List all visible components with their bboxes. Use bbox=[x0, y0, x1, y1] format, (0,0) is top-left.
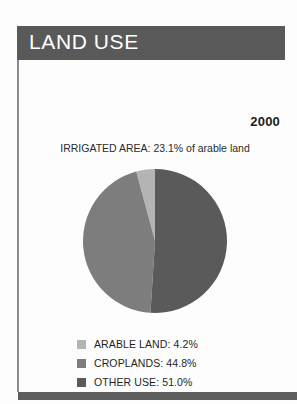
list-item: OTHER USE: 51.0% bbox=[77, 376, 198, 388]
panel-header: LAND USE bbox=[17, 26, 285, 60]
legend-label-croplands: CROPLANDS: 44.8% bbox=[94, 357, 197, 369]
panel-body: 2000 IRRIGATED AREA: 23.1% of arable lan… bbox=[17, 60, 297, 392]
list-item: ARABLE LAND: 4.2% bbox=[77, 338, 198, 350]
legend-swatch-croplands bbox=[77, 359, 86, 368]
legend-label-arable-land: ARABLE LAND: 4.2% bbox=[94, 338, 198, 350]
pie-slice-other-use bbox=[150, 169, 227, 313]
legend-swatch-other-use bbox=[77, 378, 86, 387]
pie-chart-svg bbox=[82, 168, 228, 314]
chart-legend: ARABLE LAND: 4.2% CROPLANDS: 44.8% OTHER… bbox=[77, 338, 198, 388]
list-item: CROPLANDS: 44.8% bbox=[77, 357, 198, 369]
year-label: 2000 bbox=[250, 114, 280, 129]
panel-footer-bar bbox=[18, 392, 297, 400]
page-title: LAND USE bbox=[29, 30, 139, 54]
legend-label-other-use: OTHER USE: 51.0% bbox=[94, 376, 192, 388]
pie-chart bbox=[19, 168, 291, 318]
irrigated-area-note: IRRIGATED AREA: 23.1% of arable land bbox=[19, 142, 291, 154]
legend-swatch-arable-land bbox=[77, 340, 86, 349]
land-use-panel: LAND USE 2000 IRRIGATED AREA: 23.1% of a… bbox=[17, 26, 297, 400]
